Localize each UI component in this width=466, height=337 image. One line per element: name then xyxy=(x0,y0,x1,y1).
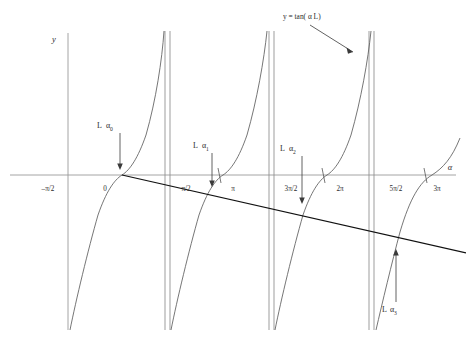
root-label-2-sub: 2 xyxy=(293,149,296,155)
x-tick-label-7: 3π xyxy=(433,185,441,193)
axis-group xyxy=(10,33,456,330)
intersection-tick-group xyxy=(218,168,427,183)
plot-canvas: –π/2 0 π/2 π 3π/2 2π 5π/2 3π y α y = tan… xyxy=(0,0,466,337)
x-axis-label: α xyxy=(448,162,453,172)
x-tick-label-5: 2π xyxy=(336,185,344,193)
y-axis-label: y xyxy=(51,34,56,44)
root-annotation-0: Lα0 xyxy=(97,121,123,170)
tan-curve-group xyxy=(70,31,460,330)
curve-annotation-arrowhead xyxy=(347,48,354,54)
root-label-0-sub: 0 xyxy=(110,126,113,132)
root-label-1-sub: 1 xyxy=(206,146,209,152)
root-label-3-sub: 3 xyxy=(394,310,397,316)
tan-branch-2 xyxy=(275,31,371,330)
root-label-3-L: L xyxy=(382,305,387,314)
root-label-1: Lα1 xyxy=(193,141,209,152)
curve-equation-label: y = tan( α L) xyxy=(283,12,321,21)
x-tick-label-6: 5π/2 xyxy=(390,185,403,193)
root-label-0: Lα0 xyxy=(97,121,113,132)
tan-branch-1 xyxy=(171,31,267,330)
root-label-3: Lα3 xyxy=(382,305,397,316)
x-tick-label-3: π xyxy=(231,185,235,193)
root-annotation-2: Lα2 xyxy=(280,144,305,204)
curve-annotation-leader xyxy=(310,25,353,52)
root-annotation-1: Lα1 xyxy=(193,141,215,187)
root-arrowhead-0 xyxy=(117,164,123,171)
x-tick-label-2: π/2 xyxy=(181,185,191,193)
tangent-eigenvalue-figure: –π/2 0 π/2 π 3π/2 2π 5π/2 3π y α y = tan… xyxy=(0,0,466,337)
asymptote-group xyxy=(165,31,374,330)
tick-alpha2 xyxy=(322,168,325,183)
root-label-2: Lα2 xyxy=(280,144,296,155)
root-label-2-L: L xyxy=(280,144,285,153)
x-tick-label-0: –π/2 xyxy=(41,185,55,193)
tick-alpha1 xyxy=(218,168,221,183)
root-label-1-L: L xyxy=(193,141,198,150)
root-arrowhead-2 xyxy=(299,198,305,205)
curve-annotation: y = tan( α L) xyxy=(283,12,353,54)
x-tick-labels: –π/2 0 π/2 π 3π/2 2π 5π/2 3π xyxy=(41,185,441,193)
x-tick-label-4: 3π/2 xyxy=(285,185,298,193)
root-arrowhead-3 xyxy=(393,249,399,256)
x-tick-label-1: 0 xyxy=(103,185,107,193)
root-label-0-L: L xyxy=(97,121,102,130)
tan-branch-0 xyxy=(70,31,164,330)
root-annotation-3: Lα3 xyxy=(382,249,399,316)
